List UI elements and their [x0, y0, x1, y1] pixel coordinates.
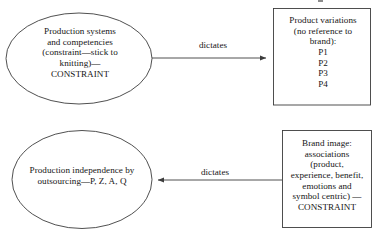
- scan-artifact-speck: [318, 0, 323, 2]
- node-production-systems-label: Production systems and competencies (con…: [24, 26, 136, 79]
- edge-bottom-label: dictates: [180, 167, 250, 177]
- node-product-variations-label: Product variations (no reference to bran…: [277, 15, 369, 89]
- node-brand-image-label: Brand image: associations (product, expe…: [284, 138, 370, 212]
- diagram-canvas: Production systems and competencies (con…: [0, 0, 381, 235]
- edge-top-label: dictates: [178, 40, 248, 50]
- node-production-independence-label: Production independence by outsourcing—P…: [20, 165, 144, 186]
